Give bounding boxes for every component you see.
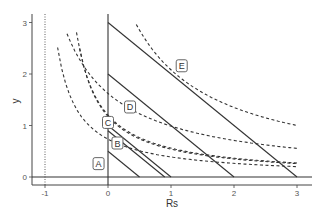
x-axis-title: Rs bbox=[166, 198, 178, 209]
y-tick-label: 1 bbox=[23, 122, 28, 131]
series-group bbox=[58, 23, 297, 178]
x-tick-label: 1 bbox=[169, 189, 174, 198]
x-tick-label: -1 bbox=[41, 189, 49, 198]
x-tick-label: 0 bbox=[106, 189, 111, 198]
y-tick-label: 2 bbox=[23, 70, 28, 79]
y-tick-label: 3 bbox=[23, 19, 28, 28]
line-A bbox=[108, 151, 140, 177]
label-text-A: A bbox=[96, 159, 102, 169]
x-tick-label: 2 bbox=[232, 189, 237, 198]
chart: -101230123 ABCDE Rs y bbox=[0, 0, 328, 217]
curve-E-curve bbox=[136, 25, 297, 126]
axes: -101230123 bbox=[23, 14, 312, 198]
line-D bbox=[108, 74, 234, 177]
y-tick-label: 0 bbox=[23, 173, 28, 182]
x-tick-label: 3 bbox=[295, 189, 300, 198]
label-text-B: B bbox=[114, 139, 120, 149]
label-text-C: C bbox=[105, 118, 112, 128]
y-axis-title: y bbox=[10, 99, 21, 104]
curve-D-curve bbox=[67, 34, 297, 149]
line-C bbox=[108, 126, 171, 178]
curve-C-curve bbox=[77, 32, 298, 163]
label-text-E: E bbox=[179, 61, 185, 71]
label-text-D: D bbox=[127, 102, 134, 112]
